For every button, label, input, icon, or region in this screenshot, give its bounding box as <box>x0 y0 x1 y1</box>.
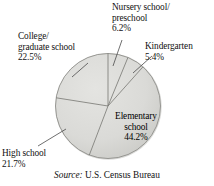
slice-value-kindergarten: 5.4% <box>145 52 193 63</box>
slice-label-line-1: High school <box>2 148 46 159</box>
slice-label-line-2: school <box>105 122 167 133</box>
slice-value-nursery-school: 6.2% <box>112 23 170 34</box>
slice-label-nursery-school: Nursery school/ preschool 6.2% <box>112 2 170 34</box>
slice-label-line-1: Elementary <box>105 111 167 122</box>
leader-highschool <box>38 129 66 146</box>
slice-label-line-1: Kindergarten <box>145 41 193 52</box>
slice-label-line-2: graduate school <box>18 42 75 53</box>
slice-label-high-school: High school 21.7% <box>2 148 46 169</box>
slice-label-elementary-school: Elementary school 44.2% <box>105 111 167 143</box>
source-text: U.S. Census Bureau <box>85 170 160 180</box>
slice-label-kindergarten: Kindergarten 5.4% <box>145 41 193 62</box>
slice-label-line-2: preschool <box>112 13 170 24</box>
slice-label-college-graduate-school: College/ graduate school 22.5% <box>18 31 75 63</box>
slice-value-college-graduate-school: 22.5% <box>18 52 75 63</box>
slice-label-line-1: College/ <box>18 31 75 42</box>
source-note: Source: U.S. Census Bureau <box>0 170 214 180</box>
slice-value-elementary-school: 44.2% <box>105 132 167 143</box>
slice-value-high-school: 21.7% <box>2 159 46 170</box>
slice-label-line-1: Nursery school/ <box>112 2 170 13</box>
source-prefix: Source: <box>54 170 83 180</box>
pie-chart-figure: Nursery school/ preschool 6.2% Kindergar… <box>0 0 214 186</box>
